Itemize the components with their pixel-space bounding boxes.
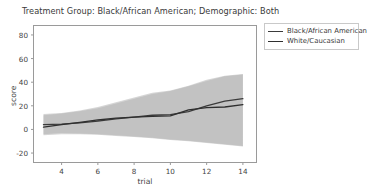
- x-axis-label: trial: [138, 177, 153, 186]
- x-tick-label: 4: [59, 167, 64, 176]
- legend-item-white-caucasian[interactable]: White/Caucasian: [268, 37, 354, 46]
- legend-item-black-african-american[interactable]: Black/African American: [268, 27, 354, 36]
- confidence-band-1: [43, 75, 242, 147]
- y-tick-label: 60: [2, 54, 28, 63]
- y-tick-label: 80: [2, 30, 28, 39]
- x-tick-label: 6: [96, 167, 101, 176]
- legend-swatch-icon: [268, 31, 283, 32]
- legend-label: White/Caucasian: [287, 37, 345, 46]
- legend-label: Black/African American: [287, 27, 367, 36]
- x-tick-label: 12: [202, 167, 211, 176]
- y-axis-label: score: [9, 86, 18, 106]
- y-tick-label: -20: [2, 149, 28, 158]
- x-tick-label: 8: [132, 167, 137, 176]
- chart-legend: Black/African American White/Caucasian: [264, 23, 359, 50]
- x-tick-label: 10: [166, 167, 175, 176]
- y-tick-label: 0: [2, 125, 28, 134]
- confidence-band-layer: [43, 74, 242, 147]
- x-tick-label: 14: [238, 167, 247, 176]
- legend-swatch-icon: [268, 41, 283, 42]
